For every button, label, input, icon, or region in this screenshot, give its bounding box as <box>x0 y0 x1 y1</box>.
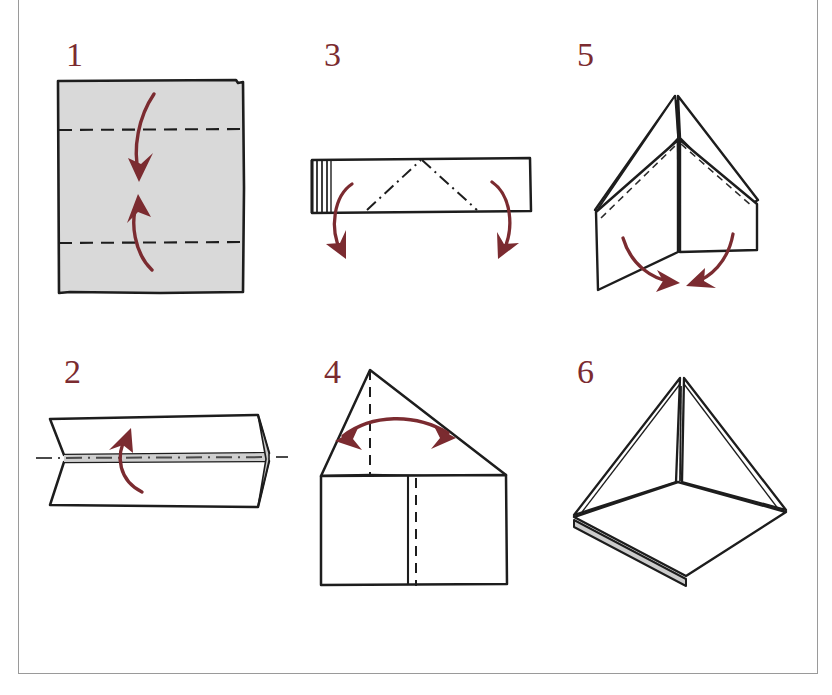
step-2-figure <box>40 395 290 555</box>
step-5-figure <box>560 60 810 310</box>
crease-line-bottom <box>59 242 243 243</box>
roof-triangle <box>321 370 506 476</box>
step-3-figure <box>300 140 550 290</box>
flap-center-fold <box>678 140 679 252</box>
band-upper-face <box>50 415 269 455</box>
instruction-page: 1 2 3 4 5 6 <box>0 0 832 695</box>
apex-center-line <box>680 386 681 481</box>
crease-line-top <box>59 129 243 130</box>
body-rectangle <box>321 475 507 585</box>
paper-square <box>58 80 244 293</box>
step-6-figure <box>560 360 810 610</box>
crease-centerline-dashdot <box>36 457 288 458</box>
step-number-1: 1 <box>66 38 83 72</box>
band-lower-face <box>50 461 269 507</box>
step-4-figure <box>300 360 550 600</box>
step-number-3: 3 <box>324 38 341 72</box>
step-1-figure <box>40 70 280 310</box>
step-number-2: 2 <box>64 355 81 389</box>
peak-spine-line <box>677 100 678 138</box>
